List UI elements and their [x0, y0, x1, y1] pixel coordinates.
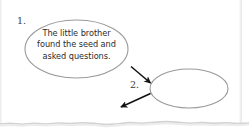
bubble-text-line-2: found the seed and — [27, 39, 126, 50]
bubble-text-line-1: The little brother — [27, 28, 126, 39]
diagram-shapes — [0, 0, 249, 134]
arrow-step2-to-step3 — [121, 94, 151, 108]
bubble-ellipse-step-2[interactable] — [150, 69, 228, 108]
worksheet-canvas: 1. The little brother found the seed and… — [0, 0, 249, 134]
bubble-text-step-1[interactable]: The little brother found the seed and as… — [27, 28, 126, 62]
step-number-label-2: 2. — [130, 80, 139, 90]
step-number-label-1: 1. — [17, 16, 26, 26]
bubble-text-line-3: asked questions. — [27, 51, 126, 62]
